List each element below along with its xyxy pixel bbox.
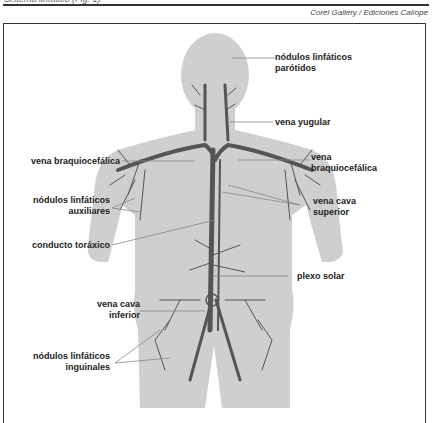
label-solar-plexus: plexo solar bbox=[297, 271, 345, 282]
label-jugular-vein: vena yugular bbox=[275, 117, 331, 128]
label-line: superior bbox=[313, 207, 356, 218]
label-line: nódulos linfáticos bbox=[10, 351, 110, 362]
label-axillary-nodes: nódulos linfáticos auxiliares bbox=[10, 195, 110, 217]
label-inguinal-nodes: nódulos linfáticos inguinales bbox=[10, 351, 110, 373]
label-inferior-vena-cava: vena cava inferior bbox=[60, 299, 140, 321]
label-line: inferior bbox=[60, 310, 140, 321]
label-parotid-nodes: nódulos linfáticos parótidos bbox=[275, 52, 352, 74]
label-line: nódulos linfáticos bbox=[10, 195, 110, 206]
label-line: parótidos bbox=[275, 63, 352, 74]
label-line: vena cava bbox=[60, 299, 140, 310]
label-brachiocephalic-right: vena braquiocefálica bbox=[311, 152, 377, 174]
label-line: auxiliares bbox=[10, 206, 110, 217]
label-line: nódulos linfáticos bbox=[275, 52, 352, 63]
label-line: braquiocefálica bbox=[311, 163, 377, 174]
label-thoracic-duct: conducto toráxico bbox=[10, 240, 110, 251]
label-superior-vena-cava: vena cava superior bbox=[313, 196, 356, 218]
label-line: vena bbox=[311, 152, 377, 163]
label-line: inguinales bbox=[10, 362, 110, 373]
label-line: vena cava bbox=[313, 196, 356, 207]
label-brachiocephalic-left: vena braquiocefálica bbox=[10, 156, 120, 167]
body-silhouette bbox=[88, 33, 343, 408]
